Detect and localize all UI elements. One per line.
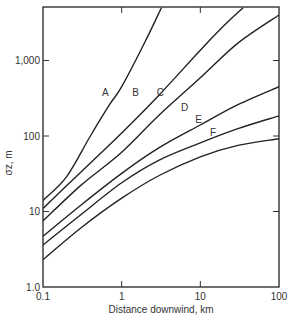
plot-canvas: 0.1110100 1.0101001,000 ABCDEF Distance … [0,0,291,322]
curve-b [43,8,243,209]
curve-c [43,15,279,221]
x-tick-label: 0.1 [36,291,50,302]
curves [43,8,279,260]
curve-label-e: E [195,114,202,125]
curve-label-f: F [210,127,216,138]
y-axis-ticks: 1.0101001,000 [15,55,279,293]
curve-e [43,116,279,245]
y-tick-label: 1,000 [15,55,40,66]
x-tick-label: 100 [271,291,288,302]
x-tick-label: 10 [195,291,207,302]
y-tick-label: 1.0 [26,282,40,293]
y-axis-title: σz, m [3,150,14,175]
x-axis-title: Distance downwind, km [108,304,213,315]
curve-d [43,87,279,237]
x-axis-ticks: 0.1110100 [36,7,288,302]
y-tick-label: 100 [23,131,40,142]
y-tick-label: 10 [29,206,41,217]
curve-label-b: B [132,87,139,98]
curve-label-d: D [181,102,188,113]
curve-a [43,8,161,201]
curve-label-c: C [157,87,164,98]
curve-labels: ABCDEF [102,87,216,139]
curve-label-a: A [102,87,109,98]
x-tick-label: 1 [119,291,125,302]
